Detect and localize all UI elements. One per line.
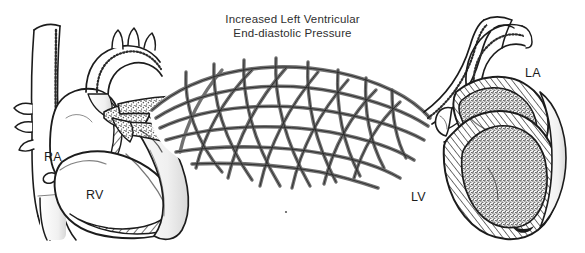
ink-speck: [285, 211, 287, 213]
label-right-ventricle: RV: [86, 188, 104, 202]
label-left-ventricle: LV: [411, 190, 426, 204]
label-left-atrium: LA: [525, 66, 541, 80]
heart-pulmonary-circulation-illustration: [0, 0, 585, 253]
label-right-atrium: RA: [44, 150, 62, 164]
